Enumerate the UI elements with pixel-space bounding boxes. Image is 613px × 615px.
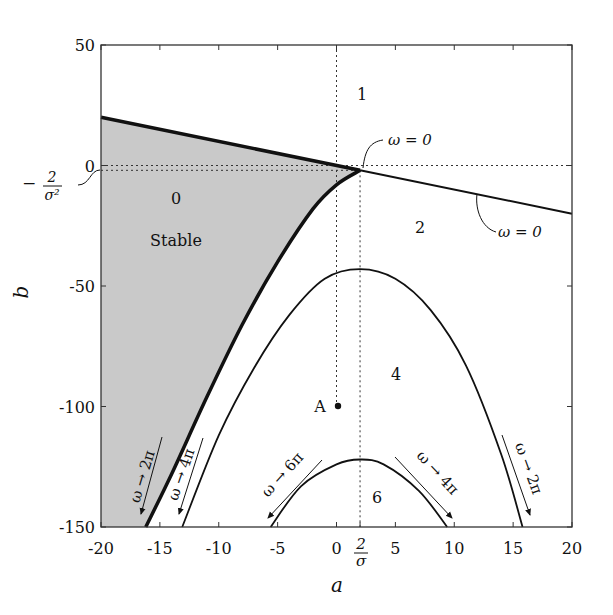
chart: -20-15-10-505101520 500-50-100-150 2 σ −…	[0, 0, 613, 615]
x-tick-2-over-sigma: 2 σ	[354, 535, 368, 570]
svg-text:ω = 0: ω = 0	[498, 223, 542, 241]
y-tick-label: -150	[59, 518, 95, 537]
svg-text:−: −	[22, 173, 36, 193]
y-tick-label: -50	[69, 277, 95, 296]
region-label-2: 2	[415, 218, 425, 237]
region-label-0: 0	[171, 189, 181, 208]
point-a-marker	[335, 403, 341, 409]
x-tick-label: 5	[390, 539, 400, 558]
point-a-label: A	[313, 397, 326, 416]
annotation-left-6pi: ω → 6π	[258, 449, 322, 518]
x-tick-label: -5	[270, 539, 286, 558]
omega-zero-line	[360, 170, 572, 213]
y-tick-label: -100	[59, 398, 95, 417]
region-label-4: 4	[391, 365, 401, 384]
annotation-right-4pi: ω → 4π	[395, 447, 463, 518]
stable-label: Stable	[150, 231, 202, 250]
x-tick-label: 20	[562, 539, 582, 558]
svg-text:σ: σ	[356, 552, 367, 570]
svg-text:ω → 6π: ω → 6π	[258, 449, 307, 501]
svg-text:σ²: σ²	[44, 187, 60, 203]
svg-text:ω = 0: ω = 0	[388, 131, 432, 149]
svg-text:2: 2	[355, 535, 366, 553]
x-tick-label: 10	[444, 539, 464, 558]
svg-text:ω → 2π: ω → 2π	[511, 440, 546, 497]
svg-text:2: 2	[47, 169, 57, 185]
region-label-6: 6	[372, 488, 382, 507]
y-tick-label: 50	[75, 36, 95, 55]
region-label-1: 1	[357, 85, 367, 104]
x-tick-label: -15	[147, 539, 173, 558]
y-tick-labels: 500-50-100-150	[59, 36, 95, 537]
y-axis-label: b	[9, 286, 33, 299]
x-tick-label: 15	[503, 539, 523, 558]
x-tick-label: -20	[88, 539, 114, 558]
omega-zero-annotation-top: ω = 0	[363, 131, 432, 168]
x-axis-label: a	[331, 573, 343, 597]
x-tick-labels: -20-15-10-505101520	[88, 539, 582, 558]
x-tick-label: 0	[331, 539, 341, 558]
x-tick-label: -10	[206, 539, 232, 558]
svg-text:ω → 4π: ω → 4π	[413, 447, 463, 499]
